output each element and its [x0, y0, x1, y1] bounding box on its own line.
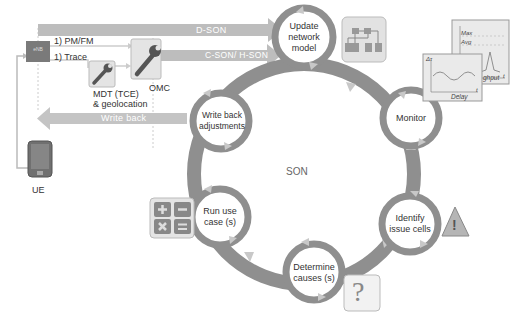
son-diagram [0, 0, 527, 323]
enb-label: eNB [27, 46, 49, 52]
calculator-icon [150, 198, 194, 238]
mdt-wrench-icon [89, 61, 115, 87]
node-writeback-label: Write backadjustments [195, 110, 249, 132]
throughput-axis-label: ghput [483, 74, 499, 81]
pm-fm-label: 1) PM/FM [54, 36, 94, 46]
node-identify-label: Identifyissue cells [384, 213, 436, 235]
delta-tau-label: Δτ [426, 56, 432, 62]
question-glyph: ? [352, 276, 364, 308]
max-label: Max [461, 30, 472, 36]
c-son-label: C-SON/ H-SON [205, 50, 268, 60]
write-back-label: Write back [101, 113, 146, 123]
avg-label: Avg [461, 39, 471, 45]
mdt-label: MDT (TCE) [93, 89, 139, 99]
node-run-label: Run usecase (s) [195, 206, 245, 228]
throughput-t-label: t [503, 73, 505, 79]
delay-t-label: t [476, 87, 478, 93]
node-update-label: Updatenetworkmodel [279, 21, 329, 54]
d-son-label: D-SON [196, 25, 227, 35]
ue-label: UE [32, 185, 45, 195]
trace-label: 1) Trace [54, 52, 87, 62]
node-monitor-label: Monitor [386, 113, 436, 124]
network-model-icon [342, 17, 386, 62]
delay-axis-label: Delay [451, 93, 468, 100]
node-determine-label: Determinecauses (s) [287, 262, 341, 284]
son-center-label: SON [286, 166, 308, 177]
warning-glyph: ! [452, 217, 457, 233]
omc-label: OMC [149, 83, 170, 93]
geolocation-label: & geolocation [93, 99, 148, 109]
omc-wrench-icon [131, 39, 161, 79]
ue-phone-icon [28, 141, 52, 177]
